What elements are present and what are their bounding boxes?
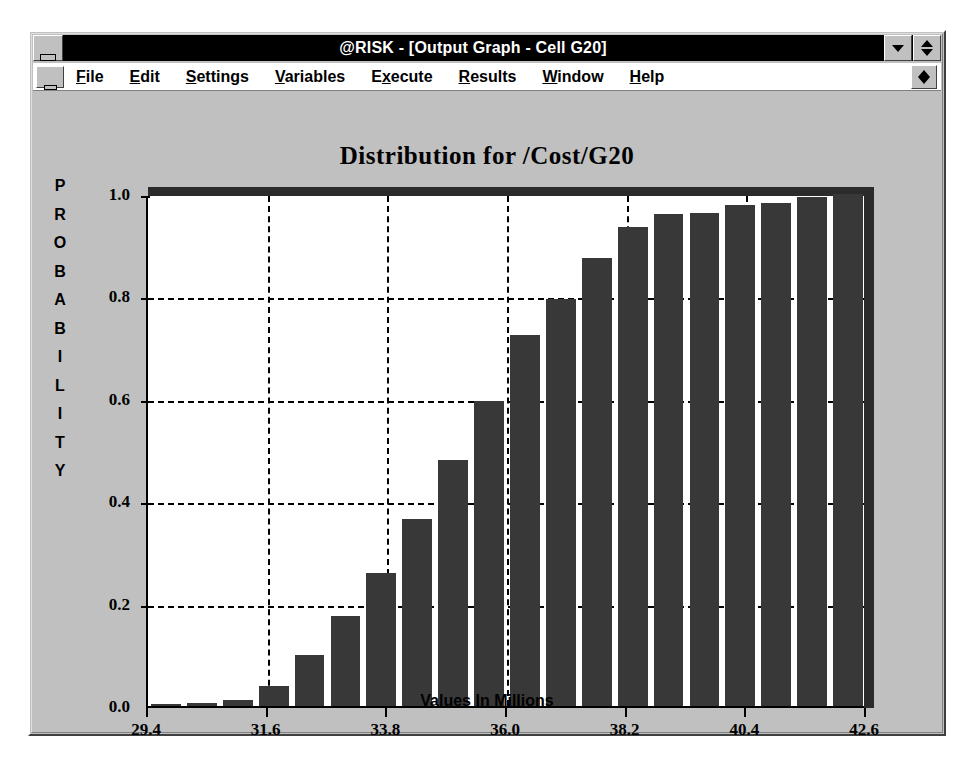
bar (833, 194, 863, 706)
menu-bar: File Edit Settings Variables Execute Res… (33, 63, 941, 91)
plot-area: 0.00.20.40.60.81.0 29.431.633.836.038.24… (146, 187, 891, 712)
menu-item-variables[interactable]: Variables (275, 68, 345, 86)
bar (474, 401, 504, 706)
x-tick-label: 31.6 (251, 720, 281, 740)
plot-canvas (146, 196, 864, 708)
title-bar: @RISK - [Output Graph - Cell G20] (33, 35, 941, 61)
chart-client-area: Distribution for /Cost/G20 PROBABILITY 0… (33, 92, 941, 731)
x-tick-label: 40.4 (729, 720, 759, 740)
bar (761, 203, 791, 706)
x-tick-label: 42.6 (849, 720, 879, 740)
document-restore-button[interactable] (911, 65, 937, 89)
bar (725, 205, 755, 706)
bar (690, 213, 720, 706)
menu-item-results[interactable]: Results (459, 68, 517, 86)
bar (546, 299, 576, 706)
restore-down-icon (921, 49, 933, 56)
y-tick-label: 0.8 (86, 287, 130, 307)
minimize-button[interactable] (884, 35, 912, 61)
menu-item-help[interactable]: Help (630, 68, 665, 86)
y-axis-label-letter: T (55, 429, 65, 458)
document-system-menu-glyph (44, 85, 57, 90)
menu-items: File Edit Settings Variables Execute Res… (76, 68, 911, 86)
application-window: @RISK - [Output Graph - Cell G20] File E… (28, 30, 946, 736)
document-system-menu-icon[interactable] (36, 66, 64, 88)
title-bar-buttons (883, 35, 941, 61)
y-tick-label: 1.0 (86, 185, 130, 205)
restore-button[interactable] (913, 35, 941, 61)
menu-item-edit[interactable]: Edit (130, 68, 160, 86)
bar (510, 335, 540, 706)
x-tick-label: 38.2 (610, 720, 640, 740)
y-tick-mark (141, 298, 150, 300)
menu-item-execute[interactable]: Execute (371, 68, 432, 86)
x-tick-label: 33.8 (370, 720, 400, 740)
y-tick-label: 0.6 (86, 390, 130, 410)
y-tick-label: 0.2 (86, 595, 130, 615)
bar (618, 227, 648, 706)
y-axis-label-letter: I (58, 343, 62, 372)
y-axis-label-letter: B (54, 258, 66, 287)
window-title: @RISK - [Output Graph - Cell G20] (63, 39, 883, 57)
window-system-menu-icon[interactable] (33, 35, 63, 61)
y-tick-mark (141, 196, 150, 198)
y-axis-label: PROBABILITY (47, 172, 73, 486)
screen: @RISK - [Output Graph - Cell G20] File E… (0, 0, 973, 772)
y-tick-mark (141, 503, 150, 505)
bar (797, 197, 827, 706)
y-axis-label-letter: B (54, 315, 66, 344)
y-axis-label-letter: L (55, 372, 65, 401)
bar (582, 258, 612, 706)
chart-title: Distribution for /Cost/G20 (33, 142, 941, 170)
plot-3d-top-shadow (148, 187, 874, 196)
y-tick-label: 0.4 (86, 492, 130, 512)
y-axis-label-letter: P (55, 172, 66, 201)
minimize-icon (892, 45, 904, 52)
bar (402, 519, 432, 706)
plot-3d-right-shadow (864, 196, 874, 708)
bar-series (148, 196, 864, 706)
menu-item-file[interactable]: File (76, 68, 104, 86)
y-axis-label-letter: R (54, 201, 66, 230)
document-restore-down-icon (918, 77, 930, 84)
restore-up-icon (921, 40, 933, 47)
y-axis-label-letter: A (54, 286, 66, 315)
x-axis-label: Values In Millions (33, 692, 941, 710)
menu-item-settings[interactable]: Settings (186, 68, 249, 86)
y-axis-label-letter: Y (55, 457, 66, 486)
bar (366, 573, 396, 706)
y-axis-label-letter: I (58, 400, 62, 429)
x-tick-label: 29.4 (131, 720, 161, 740)
bar (654, 214, 684, 706)
x-tick-label: 36.0 (490, 720, 520, 740)
document-restore-up-icon (918, 70, 930, 77)
bar (438, 460, 468, 706)
y-tick-mark (141, 401, 150, 403)
y-axis-label-letter: O (54, 229, 66, 258)
menu-item-window[interactable]: Window (542, 68, 603, 86)
y-tick-mark (141, 606, 150, 608)
system-menu-glyph (40, 54, 56, 61)
